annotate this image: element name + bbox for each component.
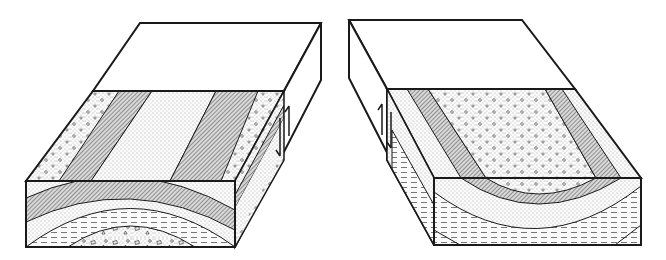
right-front-section	[434, 178, 641, 245]
diagram-canvas	[0, 0, 666, 260]
right-block-diagram	[349, 20, 650, 255]
left-raised-top-surface	[93, 23, 321, 91]
left-front-section	[26, 177, 235, 247]
left-block-diagram	[20, 23, 321, 255]
right-raised-top-surface	[349, 20, 575, 89]
figure: Eroded fold block diagrams with faults	[0, 0, 666, 260]
